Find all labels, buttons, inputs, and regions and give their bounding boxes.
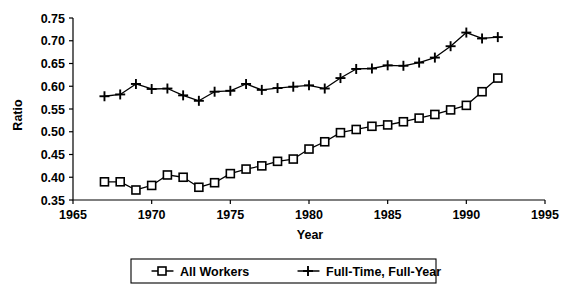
y-tick-label: 0.40: [41, 171, 65, 185]
data-point: [336, 129, 344, 137]
legend-label: All Workers: [180, 265, 249, 279]
data-series: [99, 28, 502, 194]
data-point: [447, 106, 455, 114]
y-tick-label: 0.50: [41, 125, 65, 139]
x-tick-label: 1975: [216, 208, 244, 222]
series-2: [99, 28, 502, 106]
y-tick-label: 0.75: [41, 12, 65, 26]
data-point: [478, 88, 486, 96]
x-tick-label: 1970: [138, 208, 166, 222]
data-point: [242, 165, 250, 173]
data-point: [384, 121, 392, 129]
data-point: [462, 101, 470, 109]
y-tick-label: 0.35: [41, 194, 65, 208]
data-point: [116, 178, 124, 186]
data-point: [163, 171, 171, 179]
data-point: [352, 125, 360, 133]
legend-marker-square: [158, 267, 166, 275]
data-point: [211, 179, 219, 187]
y-tick-label: 0.60: [41, 80, 65, 94]
x-tick-label: 1990: [452, 208, 480, 222]
x-tick-label: 1995: [531, 208, 559, 222]
axis-lines: [73, 18, 545, 200]
data-point: [195, 183, 203, 191]
data-point: [100, 178, 108, 186]
x-tick-label: 1980: [295, 208, 323, 222]
y-tick-label: 0.45: [41, 148, 65, 162]
series-line: [104, 33, 497, 101]
data-point: [494, 74, 502, 82]
chart-legend: All WorkersFull-Time, Full-Year: [131, 259, 441, 283]
y-axis-title: Ratio: [11, 99, 25, 131]
x-axis-title: Year: [297, 228, 324, 242]
y-tick-label: 0.55: [41, 103, 65, 117]
data-point: [289, 155, 297, 163]
data-point: [148, 181, 156, 189]
data-point: [258, 162, 266, 170]
legend-label: Full-Time, Full-Year: [326, 265, 441, 279]
y-tick-label: 0.70: [41, 34, 65, 48]
data-point: [415, 114, 423, 122]
data-point: [368, 122, 376, 130]
axes: [69, 18, 545, 204]
x-axis-tick-labels: 1965197019751980198519901995: [59, 208, 559, 222]
data-point: [321, 138, 329, 146]
data-point: [226, 170, 234, 178]
x-tick-label: 1985: [374, 208, 402, 222]
y-tick-label: 0.65: [41, 57, 65, 71]
data-point: [132, 186, 140, 194]
data-point: [431, 110, 439, 118]
series-1: [100, 74, 501, 194]
data-point: [179, 173, 187, 181]
y-axis-tick-labels: 0.350.400.450.500.550.600.650.700.75: [41, 12, 65, 208]
data-point: [305, 145, 313, 153]
line-chart: 0.350.400.450.500.550.600.650.700.75 196…: [0, 0, 567, 297]
data-point: [274, 157, 282, 165]
x-tick-label: 1965: [59, 208, 87, 222]
data-point: [399, 118, 407, 126]
chart-container: 0.350.400.450.500.550.600.650.700.75 196…: [0, 0, 567, 297]
